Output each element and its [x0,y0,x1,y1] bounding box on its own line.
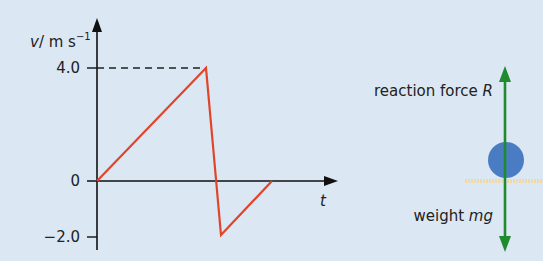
reaction-force-label: reaction force R [374,82,493,100]
x-axis-label: t [320,192,327,210]
y-axis-arrow-icon [92,18,102,32]
y-tick-label-4: 4.0 [56,59,80,77]
y-axis-label: v/ m s−1 [30,31,91,51]
y-tick-label-minus-2: −2.0 [44,228,80,246]
weight-arrow-icon [499,236,511,252]
y-tick-label-0: 0 [70,172,80,190]
velocity-time-graph: v/ m s−1 4.0 0 −2.0 t [30,18,338,250]
diagram-canvas: v/ m s−1 4.0 0 −2.0 t reaction force R w… [0,0,543,261]
reaction-arrow-icon [499,66,511,82]
weight-label: weight mg [414,207,493,225]
velocity-line [97,68,272,235]
x-axis-arrow-icon [324,176,338,186]
force-diagram: reaction force R weight mg [374,66,543,252]
